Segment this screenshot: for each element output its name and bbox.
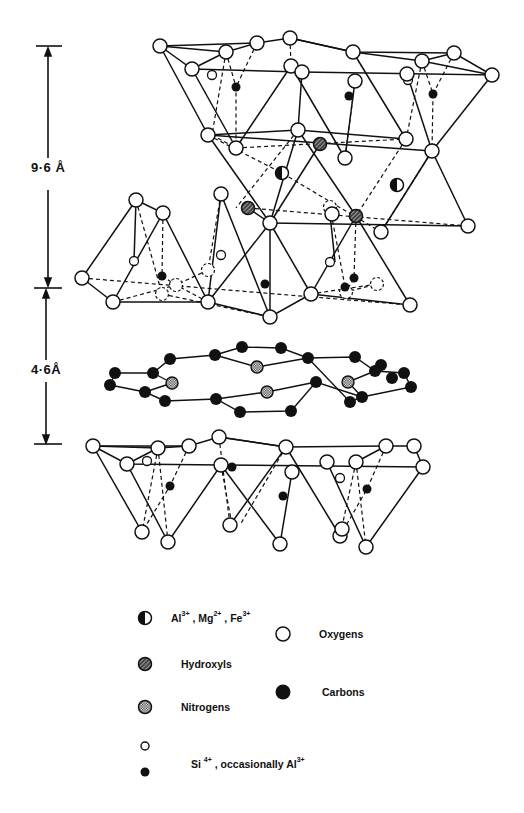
oxygen-atom <box>153 39 167 53</box>
carbon-atom <box>310 376 322 388</box>
carbon-atom <box>386 372 398 384</box>
oxygen-atom <box>250 36 264 50</box>
oxygen-atom <box>229 141 243 155</box>
oxygen-atom <box>273 537 287 551</box>
small-filled-circle-icon <box>139 766 151 778</box>
oxygen-atom <box>379 439 393 453</box>
oxygen-atom <box>223 518 237 532</box>
silicon-atom-back <box>130 257 139 266</box>
silicon-atom-back <box>336 474 345 483</box>
legend: Al3+ , Mg2+ , Fe3+ Oxygens Hydroxyls Car… <box>0 600 524 813</box>
oxygen-atom <box>348 74 362 88</box>
carbon-atom <box>302 352 314 364</box>
carbon-atom <box>344 396 356 408</box>
oxygen-atom <box>219 45 233 59</box>
carbon-atom <box>405 381 417 393</box>
oxygen-atom <box>346 45 360 59</box>
carbon-atom <box>139 386 151 398</box>
oxygen-atom <box>161 535 175 549</box>
oxygen-atom <box>320 455 334 469</box>
carbon-atom <box>104 379 116 391</box>
hatched-circle-icon <box>137 656 153 672</box>
legend-item-nitrogens: Nitrogens <box>137 699 230 715</box>
oxygen-atom-hidden <box>170 279 183 292</box>
legend-item-oxygens: Oxygens <box>274 625 363 643</box>
oxygen-atom <box>135 525 149 539</box>
oxygen-atom <box>279 440 293 454</box>
legend-label-tetrahedral-cations: Si 4+ , occasionally Al3+ <box>191 758 305 770</box>
oxygen-atom <box>335 522 349 536</box>
carbon-atom <box>159 395 171 407</box>
oxygen-atom <box>374 225 388 239</box>
organic-ring-bonds <box>110 347 411 412</box>
oxygen-atom <box>263 310 277 324</box>
half-filled-circle-icon <box>137 610 153 626</box>
atoms-layer <box>75 31 499 554</box>
legend-item-octahedral-cations: Al3+ , Mg2+ , Fe3+ <box>137 610 250 626</box>
oxygen-atom <box>201 295 215 309</box>
silicon-atom <box>228 463 237 472</box>
oxygen-atom <box>325 207 339 221</box>
oxygen-atom <box>129 193 143 207</box>
open-circle-icon <box>274 625 292 643</box>
oxygen-atom <box>425 144 439 158</box>
legend-label-nitrogens: Nitrogens <box>181 701 230 713</box>
oxygen-atom <box>185 62 199 76</box>
oxygen-atom <box>407 439 421 453</box>
oxygen-atom <box>359 540 373 554</box>
oxygen-atom <box>106 295 120 309</box>
silicon-atom <box>350 274 359 283</box>
hydroxyl-atom <box>242 202 255 215</box>
carbon-atom <box>164 353 176 365</box>
silicon-atom <box>261 280 270 289</box>
oxygen-atom <box>263 216 277 230</box>
filled-circle-icon <box>274 683 292 701</box>
oxygen-atom <box>415 54 429 68</box>
oxygen-atom <box>86 439 100 453</box>
oxygen-atom <box>151 441 165 455</box>
oxygen-atom <box>304 287 318 301</box>
silicon-atom <box>279 492 288 501</box>
legend-label-carbons: Carbons <box>322 686 365 698</box>
legend-label-octahedral-cations: Al3+ , Mg2+ , Fe3+ <box>171 612 250 624</box>
oxygen-atom <box>399 132 413 146</box>
oxygen-atom <box>285 465 299 479</box>
oxygen-atom <box>461 219 475 233</box>
dimension-arrows <box>34 46 62 444</box>
carbon-atom <box>147 367 159 379</box>
nitrogen-atom <box>342 376 354 388</box>
carbon-atom <box>210 393 222 405</box>
oxygen-atom <box>214 458 228 472</box>
oxygen-atom <box>291 123 305 137</box>
silicon-atom <box>158 272 167 281</box>
carbon-atom <box>285 405 297 417</box>
carbon-atom <box>398 367 410 379</box>
silicon-atom <box>166 482 175 491</box>
hydroxyl-atom <box>350 210 363 223</box>
hydroxyl-atom <box>314 138 327 151</box>
silicon-atom <box>345 92 354 101</box>
carbon-atom <box>209 349 221 361</box>
carbon-atom <box>349 351 361 363</box>
oxygen-atom <box>416 460 430 474</box>
carbon-atom <box>275 342 287 354</box>
legend-item-hydroxyls: Hydroxyls <box>137 656 232 672</box>
silicon-atom <box>429 90 438 99</box>
oxygen-atom <box>400 67 414 81</box>
silicon-atom-back <box>217 251 226 260</box>
carbon-atom <box>375 359 387 371</box>
oxygen-atom <box>201 128 215 142</box>
oxygen-atom <box>75 271 89 285</box>
stippled-circle-icon <box>137 699 153 715</box>
interlayer-spacing-label-4-6: 4·6Å <box>31 360 61 379</box>
legend-label-oxygens: Oxygens <box>319 628 363 640</box>
oxygen-atom-hidden <box>371 278 384 291</box>
legend-label-hydroxyls: Hydroxyls <box>181 658 232 670</box>
silicon-atom <box>363 485 372 494</box>
oxygen-atom <box>485 68 499 82</box>
oxygen-atom <box>214 187 228 201</box>
nitrogen-atom <box>261 386 273 398</box>
oxygen-atom <box>120 457 134 471</box>
carbon-atom <box>234 406 246 418</box>
silicon-atom-back <box>326 258 335 267</box>
